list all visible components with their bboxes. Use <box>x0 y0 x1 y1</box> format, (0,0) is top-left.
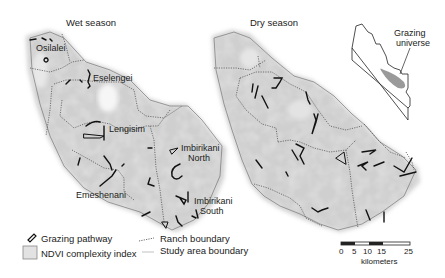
grazing-pathway-icon <box>28 234 36 242</box>
inset-leader-line <box>400 48 410 74</box>
scale-tick-0: 0 <box>339 247 344 256</box>
ranch-label-imbirikani-south-1: Imbirikani <box>194 196 233 206</box>
legend-item-grazing-pathway: Grazing pathway <box>28 233 113 244</box>
legend: Grazing pathway NDVI complexity index Ra… <box>23 233 248 259</box>
ranch-label-osilalei: Osilalei <box>36 43 66 53</box>
dry-season-map <box>212 30 420 232</box>
dry-season-title: Dry season <box>250 17 298 28</box>
inset-map: Grazing universe <box>352 24 430 120</box>
wet-season-title: Wet season <box>66 17 116 28</box>
scale-tick-5: 5 <box>352 247 357 256</box>
legend-label-grazing-pathway: Grazing pathway <box>41 233 113 244</box>
scale-tick-15: 15 <box>377 247 386 256</box>
ranch-label-emeshenani: Emeshenani <box>76 190 126 200</box>
scale-tick-25: 25 <box>404 247 413 256</box>
scale-unit-label: kilometers <box>361 257 397 266</box>
wet-light-patch <box>98 84 118 112</box>
map-canvas: Wet season Osilalei Eselengei Lengisim I… <box>0 0 445 278</box>
wet-season-map: Osilalei Eselengei Lengisim Imbirikani N… <box>26 30 233 232</box>
ranch-boundary-line-icon <box>139 238 154 241</box>
ndvi-swatch-icon <box>23 246 37 259</box>
legend-label-ndvi: NDVI complexity index <box>41 248 137 259</box>
ranch-label-imbirikani-north-2: North <box>188 153 210 163</box>
scale-tick-10: 10 <box>363 247 372 256</box>
scale-bar: 0 5 10 15 25 kilometers <box>339 242 413 266</box>
ranch-label-imbirikani-south-2: South <box>200 206 224 216</box>
inset-label-line1: Grazing <box>394 28 426 38</box>
ranch-label-eselengei: Eselengei <box>93 73 133 83</box>
legend-item-ranch-boundary: Ranch boundary <box>139 233 230 244</box>
legend-item-study-area-boundary: Study area boundary <box>142 245 248 256</box>
ranch-label-lengisim: Lengisim <box>109 124 145 134</box>
inset-label-line2: universe <box>396 38 430 48</box>
legend-label-ranch-boundary: Ranch boundary <box>160 233 230 244</box>
legend-item-ndvi: NDVI complexity index <box>23 246 137 259</box>
figure: Wet season Osilalei Eselengei Lengisim I… <box>0 0 445 278</box>
ranch-label-imbirikani-north-1: Imbirikani <box>181 143 220 153</box>
legend-label-study-area-boundary: Study area boundary <box>160 245 248 256</box>
